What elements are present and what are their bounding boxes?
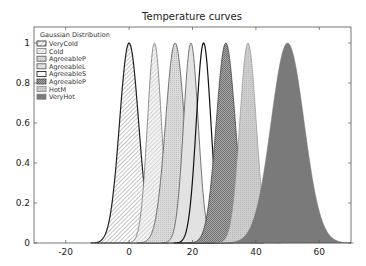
x-tick-label: 60 <box>314 247 326 257</box>
legend-item: VeryHot <box>37 93 75 101</box>
legend-swatch <box>37 64 46 69</box>
y-tick-label: 0.4 <box>16 158 31 168</box>
x-tick-label: 0 <box>126 247 132 257</box>
legend-swatch <box>37 79 46 84</box>
x-tick-label: 20 <box>187 247 199 257</box>
legend-title: Gaussian Distribution <box>40 31 110 39</box>
legend-swatch <box>37 71 46 76</box>
chart-title: Temperature curves <box>141 11 242 22</box>
legend-swatch <box>37 41 46 46</box>
x-tick-label: -20 <box>58 247 73 257</box>
legend-label: VeryHot <box>49 93 75 101</box>
y-tick-label: 1 <box>24 38 30 48</box>
y-tick-label: 0.8 <box>16 78 31 88</box>
x-tick-label: 40 <box>250 247 262 257</box>
y-tick-label: 0.6 <box>16 118 31 128</box>
legend-swatch <box>37 94 46 99</box>
y-tick-label: 0.2 <box>16 198 30 208</box>
y-tick-label: 0 <box>24 238 30 248</box>
legend-swatch <box>37 56 46 61</box>
legend: Gaussian Distribution VeryColdColdAgreea… <box>37 31 110 101</box>
legend-swatch <box>37 87 46 92</box>
curves-layer <box>91 43 353 243</box>
temperature-chart: Temperature curves -200204060 00.20.40.6… <box>0 0 366 266</box>
legend-swatch <box>37 49 46 54</box>
